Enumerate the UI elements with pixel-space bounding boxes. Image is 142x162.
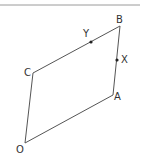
point-y-dot [89,40,92,43]
marked-points [89,40,118,61]
label-point-x: X [121,54,128,65]
parallelogram-diagram: O A B C X Y [0,0,142,162]
edge-bc [33,26,120,73]
label-vertex-b: B [116,14,123,25]
edge-co [25,73,33,143]
label-vertex-c: C [24,67,31,78]
vertex-labels: O A B C X Y [16,14,128,155]
label-point-y: Y [82,28,90,39]
parallelogram-edges [25,26,120,143]
label-vertex-a: A [114,91,121,102]
point-x-dot [115,58,118,61]
label-vertex-o: O [16,144,24,155]
edge-oa [25,95,113,143]
